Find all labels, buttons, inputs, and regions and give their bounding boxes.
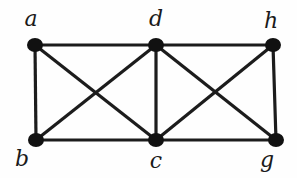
node-d [148, 38, 164, 52]
node-a [27, 38, 43, 52]
node-label-d: d [149, 8, 163, 30]
node-b [28, 133, 44, 147]
edge-h-g [273, 45, 276, 140]
node-label-g: g [260, 149, 274, 171]
edge-a-b [35, 45, 36, 140]
node-g [268, 133, 284, 147]
node-label-c: c [150, 150, 162, 172]
node-label-b: b [15, 148, 29, 170]
graph-diagram: adhbcg [0, 0, 297, 178]
node-c [148, 133, 164, 147]
node-label-a: a [24, 8, 37, 30]
node-label-h: h [264, 10, 278, 32]
node-h [265, 38, 281, 52]
